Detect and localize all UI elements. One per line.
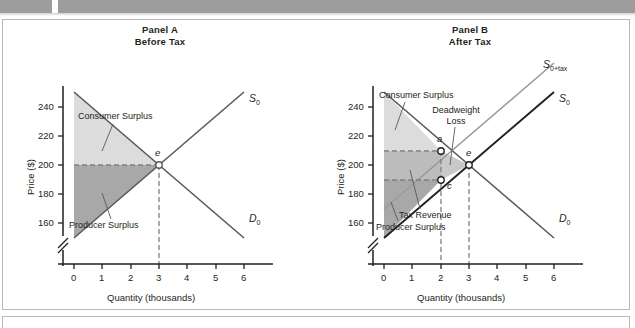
- panel-a-supply-letter: S: [249, 92, 256, 104]
- panel-b-plot: [313, 20, 627, 309]
- panel-a-xtick-3: 3: [156, 272, 161, 283]
- panel-a-consumer-surplus-label: Consumer Surplus: [78, 111, 153, 122]
- panel-b-xtick-3: 3: [466, 272, 471, 283]
- panel-b-xtick-0: 0: [381, 272, 386, 283]
- panel-b-supply-tax-letter: S: [543, 58, 550, 70]
- panel-b-deadweight-loss-label: Deadweight Loss: [426, 105, 486, 126]
- panel-a: Panel A Before Tax Price ($) 240 220 200…: [3, 20, 317, 309]
- panel-b-tax-revenue-label: Tax Revenue: [399, 210, 452, 221]
- panel-b-supply-letter: S: [559, 92, 566, 104]
- panel-b-supply-tax-label: S0+tax: [543, 58, 567, 72]
- panel-a-point-e-marker: [156, 162, 162, 168]
- panel-b-xtick-5: 5: [523, 272, 528, 283]
- panel-b-supply-subscript: 0: [566, 99, 570, 106]
- panel-a-xtick-1: 1: [99, 272, 104, 283]
- panel-a-x-axis-label: Quantity (thousands): [107, 292, 195, 303]
- panel-b-point-a-marker: [438, 148, 444, 154]
- panel-b-supply-tax-subscript: 0+tax: [550, 65, 567, 72]
- panel-b-producer-surplus-label: Producer Surplus: [376, 222, 446, 233]
- panel-b-demand-label: D0: [559, 212, 571, 226]
- panel-a-point-e-label: e: [155, 147, 160, 158]
- panel-b-point-e-label: e: [466, 147, 471, 158]
- panel-b-xtick-6: 6: [551, 272, 556, 283]
- panel-b-axis-break-1: [368, 238, 378, 248]
- panel-a-demand-letter: D: [249, 212, 257, 224]
- panel-b-deadweight-loss-line1: Deadweight: [426, 105, 486, 116]
- panel-a-axis-break-1: [58, 238, 68, 248]
- figure-root: Panel A Before Tax Price ($) 240 220 200…: [0, 0, 635, 328]
- panel-b-supply-label: S0: [559, 92, 570, 106]
- panel-b-point-e-marker: [466, 162, 472, 168]
- panel-b-point-a-label: a: [437, 133, 442, 144]
- panel-b: Panel B After Tax Price ($) 240 220 200 …: [313, 20, 627, 309]
- panel-a-supply-subscript: 0: [256, 99, 260, 106]
- panel-a-xtick-0: 0: [71, 272, 76, 283]
- header-bar-right: [58, 0, 635, 13]
- panel-a-xtick-2: 2: [128, 272, 133, 283]
- bottom-container: [2, 316, 630, 328]
- header-bar-left: [0, 0, 52, 13]
- panel-a-demand-label: D0: [249, 212, 261, 226]
- panel-b-x-axis-label: Quantity (thousands): [417, 292, 505, 303]
- panel-b-xtick-4: 4: [494, 272, 499, 283]
- panel-b-demand-subscript: 0: [567, 219, 571, 226]
- panel-b-demand-letter: D: [559, 212, 567, 224]
- panel-b-deadweight-loss-line2: Loss: [426, 116, 486, 127]
- panel-a-xtick-6: 6: [241, 272, 246, 283]
- panel-b-tax-revenue-region: [384, 151, 441, 180]
- header-shadow: [0, 13, 635, 16]
- panel-a-demand-subscript: 0: [257, 219, 261, 226]
- panel-a-producer-surplus-label: Producer Surplus: [69, 220, 139, 231]
- panel-a-supply-label: S0: [249, 92, 260, 106]
- panel-b-point-c-marker: [438, 177, 444, 183]
- panel-b-point-c-label: c: [447, 180, 452, 191]
- panel-b-deadweight-loss-region: [441, 151, 469, 180]
- panel-a-plot: [3, 20, 317, 309]
- panel-b-xtick-2: 2: [438, 272, 443, 283]
- panel-a-xtick-4: 4: [184, 272, 189, 283]
- panel-b-consumer-surplus-label: Consumer Surplus: [379, 90, 454, 101]
- panel-b-xtick-1: 1: [409, 272, 414, 283]
- figure-container: Panel A Before Tax Price ($) 240 220 200…: [2, 19, 630, 310]
- panel-a-xtick-5: 5: [213, 272, 218, 283]
